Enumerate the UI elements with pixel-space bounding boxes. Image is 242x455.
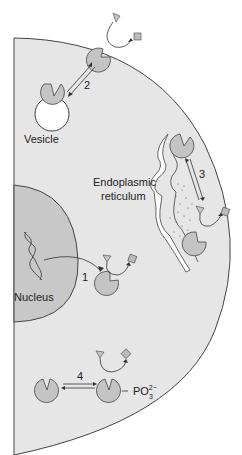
step-4-label: 4 bbox=[77, 370, 83, 382]
step-1-label: 1 bbox=[82, 271, 88, 283]
step-2-label: 2 bbox=[84, 79, 90, 91]
vesicle-label: Vesicle bbox=[24, 133, 59, 145]
phosphate-subscript: 3 bbox=[149, 393, 153, 400]
nucleus-label: Nucleus bbox=[14, 291, 54, 303]
phosphate-text: PO bbox=[133, 385, 149, 397]
er-label-line2: reticulum bbox=[101, 190, 146, 202]
step-3-label: 3 bbox=[199, 168, 205, 180]
product-square-icon bbox=[134, 33, 141, 40]
cell-diagram bbox=[0, 0, 242, 455]
er-label-line1: Endoplasmic bbox=[93, 176, 156, 188]
substrate-triangle-icon bbox=[113, 13, 120, 22]
phosphate-superscript: 2− bbox=[149, 384, 157, 391]
enzyme-membrane bbox=[86, 48, 110, 72]
phosphate-label: PO32− bbox=[133, 385, 161, 399]
